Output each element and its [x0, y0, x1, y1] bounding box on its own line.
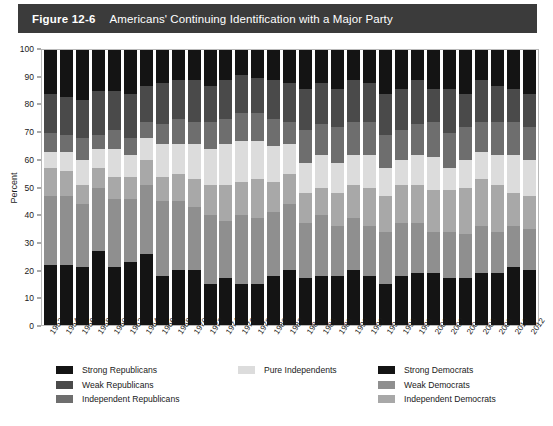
bar-segment — [44, 196, 57, 265]
bar-segment — [507, 89, 520, 122]
bar-segment — [156, 83, 169, 124]
bar-segment — [427, 157, 440, 190]
chart-container: Percent 0102030405060708090100 195219541… — [0, 38, 553, 338]
bar-segment — [411, 155, 424, 185]
bar-segment — [108, 149, 121, 177]
bar-segment — [379, 135, 392, 168]
y-axis-tick-label: 60 — [25, 155, 34, 165]
legend-item[interactable]: Independent Democrats — [378, 392, 496, 407]
bar-segment — [60, 171, 73, 196]
legend-item[interactable]: Weak Republicans — [56, 378, 179, 393]
bar-segment — [395, 130, 408, 160]
legend-item-label: Weak Republicans — [82, 380, 154, 390]
bar-segment — [475, 50, 488, 80]
bar-segment — [523, 127, 536, 160]
bar-segment — [523, 196, 536, 229]
bar-segment — [315, 50, 328, 83]
legend-item[interactable]: Pure Independents — [238, 363, 337, 378]
bar-segment — [60, 152, 73, 171]
bar-segment — [251, 113, 264, 141]
stacked-bar — [315, 50, 328, 325]
bar-segment — [124, 138, 137, 155]
bar-segment — [108, 130, 121, 149]
bar-segment — [491, 155, 504, 185]
bar-segment — [219, 144, 232, 185]
bar-segment — [523, 50, 536, 94]
bar-segment — [156, 50, 169, 83]
bar-segment — [379, 196, 392, 232]
bar-segment — [283, 270, 296, 325]
bar-segment — [140, 50, 153, 86]
bar-segment — [523, 160, 536, 196]
bar-segment — [44, 168, 57, 196]
bar-segment — [299, 130, 312, 163]
bar-segment — [219, 80, 232, 119]
stacked-bar-series — [42, 50, 538, 325]
bar-segment — [188, 122, 201, 144]
stacked-bar — [92, 50, 105, 325]
bar-segment — [427, 89, 440, 122]
bar-segment — [219, 185, 232, 221]
bar-segment — [427, 122, 440, 158]
bar-segment — [219, 221, 232, 279]
bar-segment — [379, 168, 392, 196]
stacked-bar — [347, 50, 360, 325]
bar-segment — [60, 97, 73, 136]
bar-segment — [523, 229, 536, 270]
plot-area — [41, 49, 539, 326]
stacked-bar — [235, 50, 248, 325]
legend-item[interactable]: Strong Republicans — [56, 363, 179, 378]
bar-segment — [491, 185, 504, 232]
bar-segment — [44, 152, 57, 169]
legend-item[interactable]: Strong Democrats — [378, 363, 496, 378]
bar-segment — [299, 89, 312, 130]
bar-segment — [507, 122, 520, 155]
y-axis-tick-label: 50 — [25, 183, 34, 193]
bar-segment — [204, 122, 217, 150]
bar-segment — [379, 232, 392, 284]
legend-item-label: Strong Republicans — [82, 365, 157, 375]
bar-segment — [283, 122, 296, 144]
legend-item[interactable]: Weak Democrats — [378, 378, 496, 393]
bar-segment — [188, 179, 201, 207]
bar-segment — [156, 124, 169, 143]
bar-segment — [363, 50, 376, 83]
bar-segment — [523, 94, 536, 127]
bar-segment — [124, 199, 137, 262]
stacked-bar — [379, 50, 392, 325]
bar-segment — [44, 133, 57, 152]
stacked-bar — [299, 50, 312, 325]
legend-column-independents: Pure Independents — [238, 363, 337, 378]
bar-segment — [76, 160, 89, 185]
legend-swatch-icon — [238, 366, 255, 374]
y-axis-tick-label: 30 — [25, 238, 34, 248]
bar-segment — [156, 177, 169, 202]
bar-segment — [443, 50, 456, 89]
bar-segment — [44, 94, 57, 133]
bar-segment — [92, 50, 105, 91]
bar-segment — [507, 226, 520, 267]
stacked-bar — [395, 50, 408, 325]
bar-segment — [267, 80, 280, 119]
stacked-bar — [76, 50, 89, 325]
bar-segment — [108, 91, 121, 130]
bar-segment — [283, 204, 296, 270]
legend-swatch-icon — [378, 366, 395, 374]
bar-segment — [443, 133, 456, 169]
bar-segment — [235, 141, 248, 182]
bar-segment — [219, 119, 232, 144]
bar-segment — [475, 80, 488, 121]
bar-segment — [395, 50, 408, 89]
bar-segment — [76, 267, 89, 325]
bar-segment — [459, 160, 472, 188]
bar-segment — [363, 226, 376, 276]
bar-segment — [44, 265, 57, 326]
legend-item[interactable]: Independent Republicans — [56, 392, 179, 407]
bar-segment — [283, 174, 296, 204]
bar-segment — [60, 50, 73, 97]
bar-segment — [140, 160, 153, 185]
stacked-bar — [267, 50, 280, 325]
chart-legend: Strong RepublicansWeak RepublicansIndepe… — [56, 363, 536, 407]
bar-segment — [267, 119, 280, 147]
stacked-bar — [188, 50, 201, 325]
